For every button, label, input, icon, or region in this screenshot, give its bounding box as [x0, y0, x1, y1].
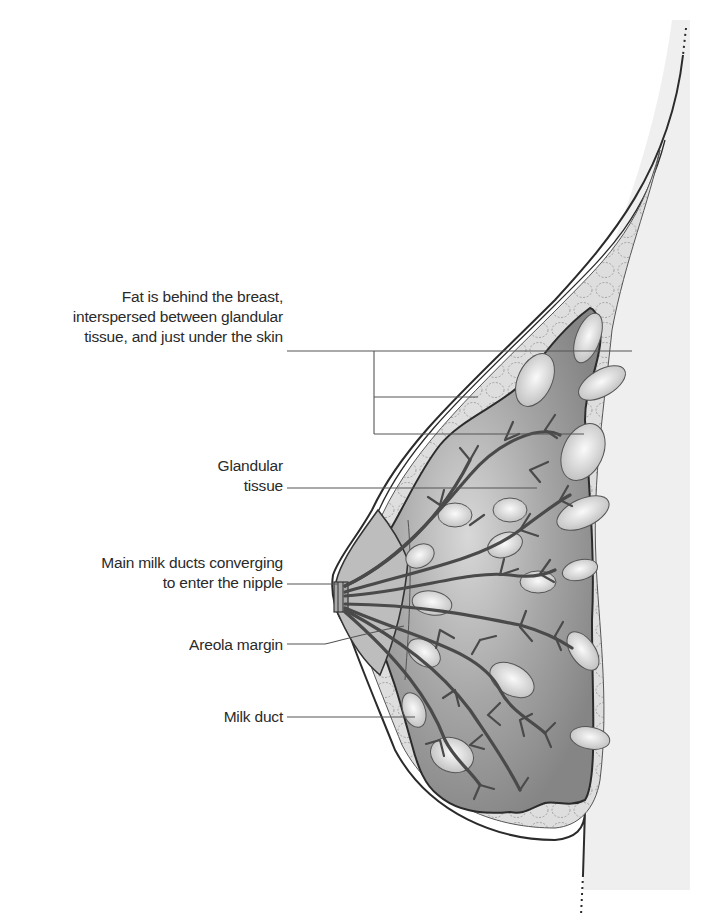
breast-anatomy-illustration [0, 0, 715, 924]
label-main-milk-ducts: Main milk ducts converging to enter the … [101, 553, 283, 593]
label-glandular-tissue: Glandular tissue [218, 456, 283, 496]
label-fat: Fat is behind the breast, interspersed b… [73, 287, 283, 347]
label-areola-margin: Areola margin [189, 635, 283, 655]
label-milk-duct: Milk duct [224, 707, 283, 727]
